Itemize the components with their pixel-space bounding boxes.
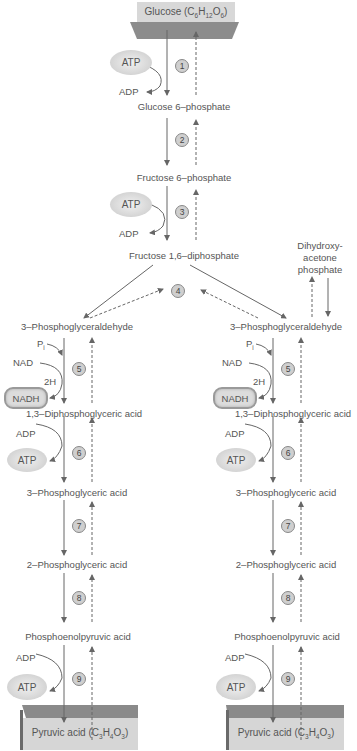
- left-nad-label: NAD: [13, 357, 33, 368]
- right-adp-label: ADP: [225, 428, 245, 439]
- left-step-7-badge: 7: [72, 519, 86, 533]
- left-step-9-badge: 9: [72, 672, 86, 686]
- right-g3p-label: 3–Phosphoglyceraldehyde: [230, 321, 342, 332]
- adp-label: ADP: [119, 86, 139, 97]
- right-step-9-badge: 9: [281, 672, 295, 686]
- left-3pg-label: 3–Phosphoglyceric acid: [27, 487, 127, 498]
- atp-pill: ATP: [110, 50, 152, 75]
- right-pep-label: Phosphoenolpyruvic acid: [234, 631, 340, 642]
- left-step-6-badge: 6: [72, 446, 86, 460]
- left-adp-label: ADP: [16, 652, 36, 663]
- atp-pill: ATP: [110, 192, 152, 217]
- right-nad-label: NAD: [222, 357, 242, 368]
- right-3pg-label: 3–Phosphoglyceric acid: [236, 487, 336, 498]
- left-2h-label: 2H: [44, 376, 56, 387]
- right-step-8-badge: 8: [281, 591, 295, 605]
- right-2h-label: 2H: [253, 376, 265, 387]
- glucose-label: Glucose (C6H12O6): [145, 6, 228, 19]
- step-2-badge: 2: [175, 133, 189, 147]
- right-atp-pill: ATP: [216, 674, 256, 700]
- right-atp-pill: ATP: [216, 448, 256, 472]
- step-4-badge: 4: [171, 284, 185, 298]
- left-adp-label: ADP: [16, 428, 36, 439]
- right-step-6-badge: 6: [281, 446, 295, 460]
- left-nadh-pill: NADH: [4, 387, 48, 409]
- right-nadh-pill: NADH: [213, 387, 257, 409]
- fructose-6-phosphate-label: Fructose 6–phosphate: [137, 172, 232, 183]
- right-step-7-badge: 7: [281, 519, 295, 533]
- right-adp-label: ADP: [225, 652, 245, 663]
- left-step-5-badge: 5: [72, 362, 86, 376]
- left-2pg-label: 2–Phosphoglyceric acid: [27, 559, 127, 570]
- left-pi-label: Pi: [37, 338, 45, 351]
- right-bpg-label: 1,3–Diphosphoglyceric acid: [235, 408, 351, 419]
- fructose-1-6-diphosphate-label: Fructose 1,6–diphosphate: [129, 250, 239, 261]
- left-atp-pill: ATP: [7, 448, 47, 472]
- left-bpg-label: 1,3–Diphosphoglyceric acid: [26, 408, 142, 419]
- adp-label: ADP: [119, 228, 139, 239]
- left-atp-pill: ATP: [7, 674, 47, 700]
- step-1-badge: 1: [175, 59, 189, 73]
- right-step-5-badge: 5: [281, 362, 295, 376]
- left-pyruvic-acid-label: Pyruvic acid (C3H4O3): [32, 727, 128, 740]
- right-pyruvic-acid-label: Pyruvic acid (C3H4O3): [238, 727, 334, 740]
- dhap-label: Dihydroxy-acetonephosphate: [297, 240, 342, 276]
- right-pi-label: Pi: [246, 338, 254, 351]
- step-3-badge: 3: [175, 205, 189, 219]
- glucose-6-phosphate-label: Glucose 6–phosphate: [138, 101, 230, 112]
- right-2pg-label: 2–Phosphoglyceric acid: [236, 559, 336, 570]
- left-g3p-label: 3–Phosphoglyceraldehyde: [21, 321, 133, 332]
- left-pep-label: Phosphoenolpyruvic acid: [25, 631, 131, 642]
- left-step-8-badge: 8: [72, 591, 86, 605]
